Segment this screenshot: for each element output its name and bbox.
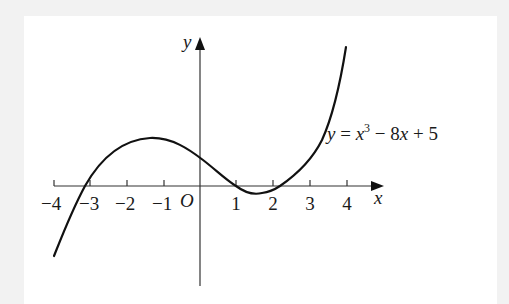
y-axis-arrow-icon	[195, 37, 205, 50]
tick-label: 4	[342, 193, 352, 214]
tick-label: −4	[41, 193, 62, 214]
x-axis-label: x	[373, 187, 383, 208]
tick-label: 2	[268, 193, 278, 214]
tick-label: −1	[152, 193, 172, 214]
tick-label: 1	[231, 193, 241, 214]
origin-label: O	[180, 190, 194, 211]
tick-label: 3	[305, 193, 315, 214]
tick-label: −2	[115, 193, 135, 214]
tick-label: −3	[79, 193, 99, 214]
equation-label: y = x3 − 8x + 5	[325, 121, 438, 144]
cubic-graph: −4 −3 −2 −1 1 2 3 4 O y x y = x3 − 8x + …	[0, 0, 509, 304]
y-axis-label: y	[181, 31, 192, 52]
